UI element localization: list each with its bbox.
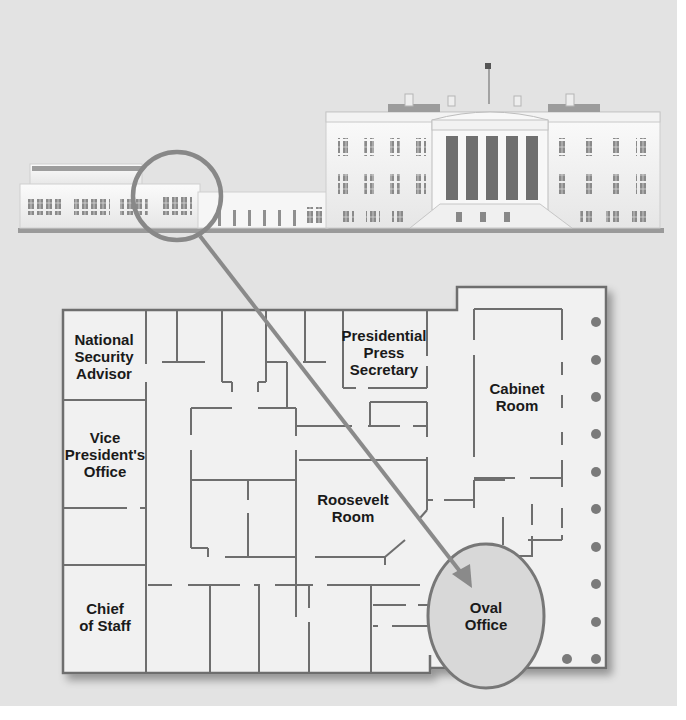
diagram-canvas: National Security Advisor Vice President… [0,0,677,706]
room-label-oval-office: Oval Office [465,599,508,633]
room-label-presidential-press-secretary: Presidential Press Secretary [341,327,426,378]
room-label-cabinet-room: Cabinet Room [489,380,544,414]
room-label-chief-of-staff: Chief of Staff [79,600,131,634]
room-label-national-security-advisor: National Security Advisor [74,331,133,382]
white-house-building [18,63,664,233]
west-wing-floor-plan [63,287,606,688]
room-label-roosevelt-room: Roosevelt Room [317,491,389,525]
room-label-vice-presidents-office: Vice President's Office [65,429,145,480]
